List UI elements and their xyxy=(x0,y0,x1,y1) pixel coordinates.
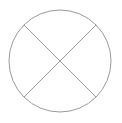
circle-cross-icon xyxy=(0,0,122,123)
diagram-canvas xyxy=(0,0,122,123)
